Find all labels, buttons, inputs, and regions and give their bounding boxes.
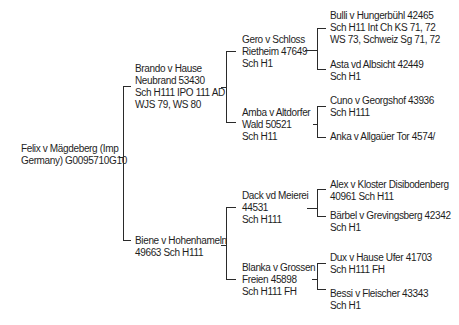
dog-ss-sire: Bulli v Hungerbühl 42465 Sch H11 Int Ch … xyxy=(330,10,440,46)
dog-titles: Sch H111 FH xyxy=(242,286,315,298)
connector-dd-bottom xyxy=(317,289,326,290)
connector-ds-bottom xyxy=(317,216,326,217)
dog-reg: Freien 45898 xyxy=(242,274,315,286)
dog-name: Gero v Schloss xyxy=(242,34,307,46)
dog-titles: Sch H11 xyxy=(242,131,310,143)
dog-titles: WS 73, Schweiz Sg 71, 72 xyxy=(330,34,440,46)
connector-sd-bracket xyxy=(317,106,318,137)
connector-root-bracket xyxy=(123,86,124,240)
connector-dd-top xyxy=(317,263,326,264)
dog-root: Felix v Mägdeberg (Imp Germany) G0095710… xyxy=(21,143,127,167)
connector-ss-bottom xyxy=(317,69,326,70)
dog-titles: 40961 Sch H11 xyxy=(330,191,449,203)
dog-name: Felix v Mägdeberg (Imp xyxy=(21,143,127,155)
dog-reg: Rietheim 47649 xyxy=(242,46,307,58)
dog-titles: Sch H11 Int Ch KS 71, 72 xyxy=(330,22,440,34)
connector-root-bottom xyxy=(123,240,131,241)
dog-titles: WJS 79, WS 80 xyxy=(135,99,225,111)
dog-ds-sire: Alex v Kloster Disibodenberg 40961 Sch H… xyxy=(330,179,449,203)
dog-name: Alex v Kloster Disibodenberg xyxy=(330,179,449,191)
dog-sd-sire: Cuno v Georgshof 43936 Sch H111 xyxy=(330,95,434,119)
connector-dam-bracket xyxy=(226,207,227,279)
dog-reg: Wald 50521 xyxy=(242,119,310,131)
dog-name: Bärbel v Grevingsberg 42342 xyxy=(330,210,451,222)
connector-sire-bottom xyxy=(226,122,236,123)
dog-reg: Germany) G0095710G10 xyxy=(21,155,127,167)
dog-dam-dam: Blanka v Grossen Freien 45898 Sch H111 F… xyxy=(242,262,315,298)
dog-titles: Sch H111 xyxy=(242,214,308,226)
connector-dam-bottom xyxy=(226,279,236,280)
dog-dd-dam: Bessi v Fleischer 43343 Sch H1 xyxy=(330,288,428,312)
dog-titles: Sch H111 xyxy=(330,107,434,119)
dog-ss-dam: Asta vd Albsicht 42449 Sch H1 xyxy=(330,59,423,83)
dog-name: Bessi v Fleischer 43343 xyxy=(330,288,428,300)
dog-ds-dam: Bärbel v Grevingsberg 42342 Sch H1 xyxy=(330,210,451,234)
dog-name: Asta vd Albsicht 42449 xyxy=(330,59,423,71)
dog-name: Biene v Hohenhameln xyxy=(135,235,227,247)
connector-sd-top xyxy=(317,106,326,107)
dog-dam-sire: Dack vd Meierei 44531 Sch H111 xyxy=(242,190,308,226)
dog-name: Blanka v Grossen xyxy=(242,262,315,274)
dog-sire: Brando v Hause Neubrand 53430 Sch H111 I… xyxy=(135,63,225,111)
dog-name: Brando v Hause xyxy=(135,63,225,75)
dog-sire-sire: Gero v Schloss Rietheim 47649 Sch H1 xyxy=(242,34,307,70)
connector-sire-bracket xyxy=(226,51,227,122)
dog-sire-dam: Amba v Altdorfer Wald 50521 Sch H11 xyxy=(242,107,310,143)
dog-titles: Sch H111 FH xyxy=(330,264,432,276)
connector-ds-bracket xyxy=(317,189,318,216)
connector-ss-bracket xyxy=(317,28,318,69)
dog-titles: Sch H111 IPO 111 AD xyxy=(135,87,225,99)
dog-sd-dam: Anka v Allgaüer Tor 4574/ xyxy=(330,131,435,143)
connector-ds-stub xyxy=(307,208,317,209)
dog-name: Amba v Altdorfer xyxy=(242,107,310,119)
dog-reg: 49663 Sch H111 xyxy=(135,247,227,259)
dog-reg: 44531 xyxy=(242,202,308,214)
connector-sd-bottom xyxy=(317,137,326,138)
dog-name: Cuno v Georgshof 43936 xyxy=(330,95,434,107)
dog-name: Dack vd Meierei xyxy=(242,190,308,202)
connector-dd-bracket xyxy=(317,263,318,289)
dog-dam: Biene v Hohenhameln 49663 Sch H111 xyxy=(135,235,227,259)
dog-titles: Sch H1 xyxy=(330,222,451,234)
connector-ss-stub xyxy=(305,50,317,51)
connector-dam-top xyxy=(226,207,236,208)
dog-titles: Sch H1 xyxy=(242,58,307,70)
dog-titles: Sch H1 xyxy=(330,71,423,83)
connector-ds-top xyxy=(317,189,326,190)
dog-titles: Sch H1 xyxy=(330,300,428,312)
connector-ss-top xyxy=(317,28,326,29)
dog-name: Bulli v Hungerbühl 42465 xyxy=(330,10,440,22)
dog-dd-sire: Dux v Hause Ufer 41703 Sch H111 FH xyxy=(330,252,432,276)
dog-reg: Neubrand 53430 xyxy=(135,75,225,87)
dog-name: Dux v Hause Ufer 41703 xyxy=(330,252,432,264)
connector-root-top xyxy=(123,86,131,87)
dog-name: Anka v Allgaüer Tor 4574/ xyxy=(330,131,435,143)
connector-sire-top xyxy=(226,51,236,52)
